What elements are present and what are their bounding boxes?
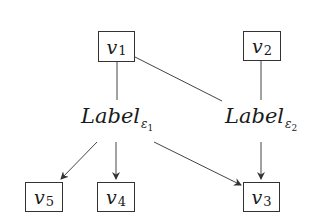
node-v3: v3 <box>243 182 280 212</box>
node-v4-base: v <box>106 186 117 208</box>
node-v4: v4 <box>97 182 135 212</box>
edge-v1-label-e2 <box>135 57 222 101</box>
label-e2-sub: 2 <box>292 123 298 133</box>
node-v4-sub: 4 <box>118 194 126 209</box>
label-e1-text: Label <box>81 104 140 128</box>
node-v2-base: v <box>252 35 263 57</box>
node-v2-sub: 2 <box>264 43 272 58</box>
node-v5-sub: 5 <box>46 194 54 209</box>
hypergraph-diagram: v1 v2 v5 v4 v3 Labelε1 Labelε2 <box>0 0 316 223</box>
node-v3-sub: 3 <box>263 194 271 209</box>
hyperedge-label-e1: Labelε1 <box>81 106 153 127</box>
node-v2: v2 <box>243 31 281 61</box>
label-e1-sub: 1 <box>148 123 154 133</box>
node-v1-sub: 1 <box>118 43 126 58</box>
arrow-label-e1-v3 <box>154 142 241 185</box>
arrow-label-e1-v5 <box>61 142 97 179</box>
label-e2-epsilon: ε2 <box>285 117 297 131</box>
label-e1-epsilon-char: ε <box>141 117 147 131</box>
hyperedge-label-e2: Labelε2 <box>225 106 297 127</box>
label-e2-text: Label <box>225 104 284 128</box>
node-v5: v5 <box>25 182 63 212</box>
node-v1-base: v <box>106 36 117 58</box>
node-v3-base: v <box>251 186 262 208</box>
node-v1: v1 <box>98 31 135 62</box>
label-e1-epsilon: ε1 <box>141 117 153 131</box>
label-e2-epsilon-char: ε <box>285 117 291 131</box>
node-v5-base: v <box>34 186 45 208</box>
